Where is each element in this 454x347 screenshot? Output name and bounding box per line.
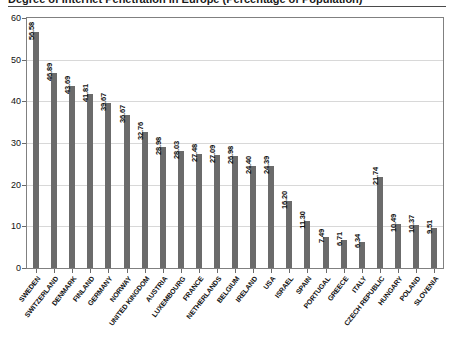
bar-value-label: 26.98 [226,146,235,164]
bar[interactable]: 27.09 [214,155,220,268]
x-tick-slot: DENMARK [63,269,81,347]
bar[interactable]: 36.67 [124,115,130,268]
y-tick-mark [22,101,26,102]
x-tick-slot: SWITZERLAND [45,269,63,347]
x-axis: SWEDENSWITZERLANDDENMARKFINLANDGERMANYNO… [27,269,443,347]
bar-slot: 27.48 [190,18,208,268]
bar-value-label: 10.37 [407,215,416,233]
bar-value-label: 6.71 [335,232,344,246]
chart-screenshot: Degree of Internet Penetration in Europe… [0,0,454,347]
x-tick-slot: POLAND [407,269,425,347]
bar-slot: 28.03 [172,18,190,268]
x-tick-label: SPAIN [295,275,313,295]
bar-value-label: 28.03 [172,141,181,159]
bar-slot: 21.74 [371,18,389,268]
bar-value-label: 41.81 [81,84,90,102]
y-tick-mark [22,185,26,186]
bar-slot: 36.67 [117,18,135,268]
bar-slot: 24.40 [244,18,262,268]
y-tick-label: 50 [11,55,21,65]
y-tick-mark [22,268,26,269]
bar-value-label: 27.48 [190,144,199,162]
bar[interactable]: 26.98 [232,156,238,268]
x-tick-label: USA [262,275,276,291]
x-tick-mark [181,269,182,273]
bar-slot: 32.76 [136,18,154,268]
x-tick-slot: UNITED KINGDOM [136,269,154,347]
bar-slot: 11.30 [298,18,316,268]
x-tick-mark [416,269,417,273]
bar-slot: 41.81 [81,18,99,268]
bar-slot: 27.09 [208,18,226,268]
y-tick-mark [22,143,26,144]
x-tick-slot: NETHERLANDS [208,269,226,347]
x-tick-mark [326,269,327,273]
bar-slot: 39.67 [99,18,117,268]
x-tick-slot: GREECE [335,269,353,347]
bar[interactable]: 41.81 [87,94,93,268]
bar-slot: 56.58 [27,18,45,268]
bar-slot: 7.49 [317,18,335,268]
bar[interactable]: 28.03 [178,151,184,268]
bar[interactable]: 28.98 [160,147,166,268]
bar-value-label: 7.49 [317,229,326,243]
y-axis: 0102030405060 [0,17,26,269]
x-tick-label: ITALY [350,275,367,294]
bar[interactable]: 6.71 [341,240,347,268]
bar[interactable]: 24.40 [250,166,256,268]
bar[interactable]: 32.76 [142,132,148,269]
bar[interactable]: 21.74 [377,177,383,268]
bar-value-label: 32.76 [136,122,145,140]
bar-value-label: 56.58 [27,22,36,40]
bar[interactable]: 11.30 [304,221,310,268]
x-tick-mark [289,269,290,273]
x-tick-mark [72,269,73,273]
y-tick-label: 40 [11,96,21,106]
x-tick-mark [362,269,363,273]
x-tick-mark [145,269,146,273]
bar[interactable]: 9.51 [431,228,437,268]
x-tick-slot: PORTUGAL [317,269,335,347]
bar-slot: 9.51 [425,18,443,268]
bar-slot: 10.49 [389,18,407,268]
bar-value-label: 21.74 [371,168,380,186]
x-tick-mark [380,269,381,273]
x-tick-mark [127,269,128,273]
bars-container: 56.5846.8943.6941.8139.6736.6732.7628.98… [27,18,443,268]
bar-value-label: 10.49 [389,214,398,232]
x-tick-slot: BELGIUM [226,269,244,347]
bar-value-label: 46.89 [45,63,54,81]
bar-value-label: 16.20 [280,191,289,209]
bar[interactable]: 16.20 [286,201,292,269]
bar-value-label: 11.30 [298,211,307,228]
bar-slot: 10.37 [407,18,425,268]
x-tick-mark [36,269,37,273]
title-divider [8,6,446,7]
x-tick-slot: CZECH REPUBLIC [371,269,389,347]
bar[interactable]: 6.34 [359,242,365,268]
bar-value-label: 43.69 [63,76,72,94]
x-tick-mark [199,269,200,273]
bar[interactable]: 7.49 [323,237,329,268]
bar[interactable]: 10.49 [395,224,401,268]
bar[interactable]: 10.37 [413,225,419,268]
y-tick-label: 10 [11,221,21,231]
x-tick-slot: IRELAND [244,269,262,347]
x-tick-mark [54,269,55,273]
x-tick-mark [307,269,308,273]
bar-slot: 46.89 [45,18,63,268]
bar-value-label: 24.39 [262,156,271,174]
bar[interactable]: 27.48 [196,154,202,269]
x-tick-slot: GERMANY [99,269,117,347]
bar[interactable]: 39.67 [105,103,111,268]
x-tick-mark [434,269,435,273]
y-tick-mark [22,60,26,61]
y-tick-label: 0 [16,263,21,273]
bar[interactable]: 43.69 [69,86,75,268]
x-tick-slot: ISRAEL [280,269,298,347]
bar[interactable]: 56.58 [33,32,39,268]
bar-slot: 24.39 [262,18,280,268]
bar[interactable]: 46.89 [51,73,57,268]
bar-value-label: 6.34 [353,234,362,248]
bar[interactable]: 24.39 [268,166,274,268]
